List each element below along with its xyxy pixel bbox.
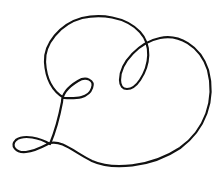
heart-stroke [14,16,211,166]
line-drawing: Single continuous-line drawing of a loop… [0,0,222,181]
continuous-line-heart-icon [0,0,222,181]
